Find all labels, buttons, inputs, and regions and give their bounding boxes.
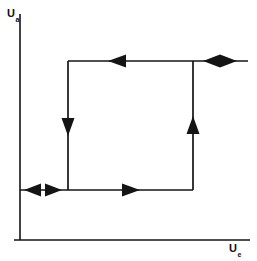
top-double-arrow-left-icon: [203, 55, 220, 68]
hysteresis-diagram: Ua Ue: [0, 0, 257, 261]
top-left-arrow-icon: [108, 55, 126, 68]
direction-arrowheads: [24, 55, 237, 197]
x-axis-label-subscript: e: [237, 251, 241, 258]
top-double-arrow-right-icon: [220, 55, 237, 68]
right-up-arrow-icon: [187, 116, 200, 134]
y-axis-label-main: U: [7, 7, 15, 19]
y-axis-label-subscript: a: [15, 16, 19, 23]
bottom-right-arrow-icon: [122, 184, 140, 197]
y-axis-label: Ua: [7, 8, 19, 21]
x-axis-label-main: U: [229, 242, 237, 254]
bottom-double-arrow-right-icon: [45, 184, 62, 197]
x-axis-label: Ue: [229, 243, 241, 256]
bottom-double-arrow-left-icon: [24, 184, 41, 197]
hysteresis-loop: [20, 61, 248, 190]
left-down-arrow-icon: [62, 118, 75, 136]
plot-canvas: [0, 0, 257, 261]
